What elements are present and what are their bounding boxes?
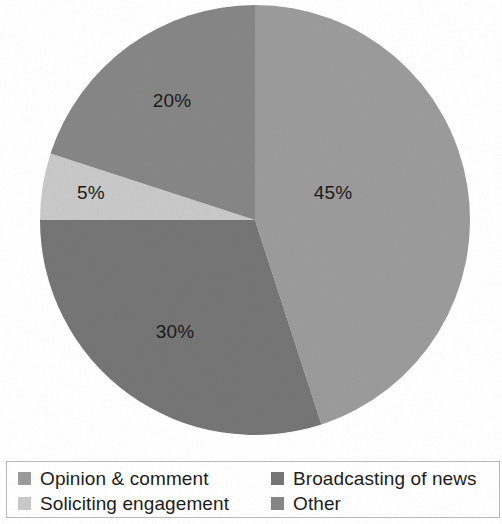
legend-entry-opinion-comment[interactable]: Opinion & comment: [18, 466, 271, 491]
pie-slice-data-label: 45%: [314, 182, 353, 203]
legend-swatch-icon-opinion-comment: [18, 472, 31, 485]
legend-swatch-icon-broadcasting-of-news: [271, 472, 284, 485]
pie-slice-data-label: 30%: [156, 321, 195, 342]
legend-swatch-icon-other: [271, 497, 284, 510]
pie-plot-area: 45%30%5%20%: [0, 0, 502, 452]
pie-slice-data-label: 20%: [153, 90, 192, 111]
chart-legend: Opinion & comment Broadcasting of news S…: [6, 461, 500, 518]
legend-label-opinion-comment: Opinion & comment: [40, 469, 209, 488]
legend-label-other: Other: [293, 494, 341, 513]
legend-entry-soliciting-engagement[interactable]: Soliciting engagement: [18, 491, 271, 516]
legend-label-soliciting-engagement: Soliciting engagement: [40, 494, 229, 513]
legend-entry-broadcasting-of-news[interactable]: Broadcasting of news: [271, 466, 499, 491]
pie-slice-group: [40, 5, 470, 435]
pie-chart-figure: 45%30%5%20% Opinion & comment Broadcasti…: [0, 0, 502, 524]
legend-swatch-icon-soliciting-engagement: [18, 497, 31, 510]
pie-slice-data-label: 5%: [77, 182, 105, 203]
legend-label-broadcasting-of-news: Broadcasting of news: [293, 469, 477, 488]
pie-svg: 45%30%5%20%: [0, 0, 502, 452]
legend-entry-other[interactable]: Other: [271, 491, 499, 516]
legend-grid: Opinion & comment Broadcasting of news S…: [18, 466, 499, 516]
